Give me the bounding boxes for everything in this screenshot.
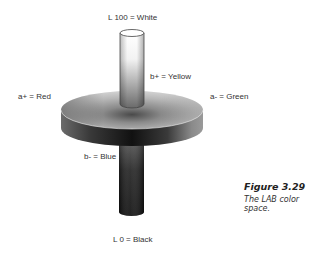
label-l-0-black: L 0 = Black bbox=[113, 236, 153, 244]
label-a-plus-red: a+ = Red bbox=[18, 93, 51, 101]
lower-cylinder-black bbox=[119, 140, 144, 216]
label-b-minus-blue: b- = Blue bbox=[84, 153, 116, 161]
figure-title: Figure 3.29 bbox=[244, 181, 305, 192]
lab-color-space-diagram bbox=[0, 0, 325, 257]
label-a-minus-green: a- = Green bbox=[210, 93, 248, 101]
figure-caption: The LAB color space. bbox=[244, 195, 325, 213]
label-b-plus-yellow: b+ = Yellow bbox=[150, 73, 191, 81]
label-l-100-white: L 100 = White bbox=[108, 14, 157, 22]
upper-cylinder-white bbox=[120, 30, 144, 109]
